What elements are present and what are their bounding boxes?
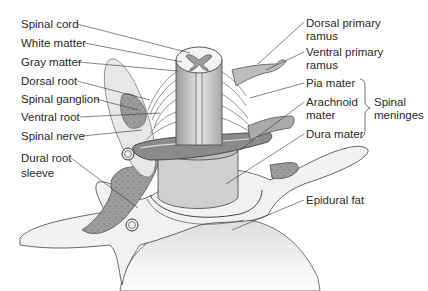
label-dura-mater: Dura mater bbox=[306, 128, 364, 141]
label-pia-mater: Pia mater bbox=[306, 77, 355, 90]
label-arachnoid-mater: Arachnoid mater bbox=[306, 96, 358, 122]
dural-sheath-left bbox=[94, 53, 167, 182]
label-dorsal-primary-ramus: Dorsal primary ramus bbox=[306, 17, 381, 43]
label-dorsal-root: Dorsal root bbox=[21, 75, 77, 88]
label-spinal-meninges: Spinal meninges bbox=[374, 96, 424, 122]
label-dural-root-sleeve: Dural root sleeve bbox=[21, 151, 72, 181]
label-ventral-primary-ramus: Ventral primary ramus bbox=[306, 46, 383, 72]
label-white-matter: White matter bbox=[21, 37, 86, 50]
label-gray-matter: Gray matter bbox=[21, 56, 82, 69]
label-spinal-ganglion: Spinal ganglion bbox=[21, 93, 100, 106]
spinal-cord-column bbox=[146, 47, 294, 145]
label-spinal-cord: Spinal cord bbox=[21, 18, 79, 31]
label-spinal-nerve: Spinal nerve bbox=[21, 130, 85, 143]
label-epidural-fat: Epidural fat bbox=[306, 194, 364, 207]
label-ventral-root: Ventral root bbox=[21, 111, 80, 124]
